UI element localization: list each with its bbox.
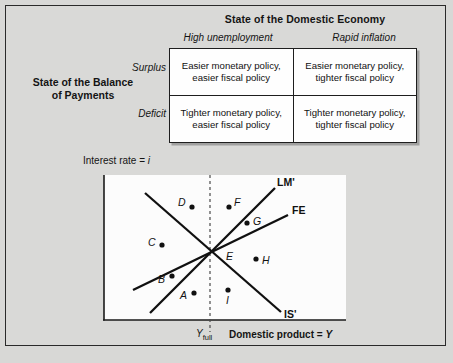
row-header-column: Surplus Deficit <box>60 48 166 140</box>
y-full-subscript: full <box>203 333 213 342</box>
y-full-axis-tick-label: Yfull <box>196 328 212 342</box>
data-point-label-F: F <box>234 196 241 208</box>
figure-root: State of the Domestic Economy High unemp… <box>0 0 453 363</box>
policy-matrix-block: State of the Domestic Economy High unemp… <box>0 0 453 152</box>
x-axis-symbol: Y <box>325 329 332 340</box>
x-axis-label: Domestic product = Y <box>229 329 332 340</box>
fe-curve-label: FE <box>292 204 305 216</box>
cell-surplus-high-unemployment: Easier monetary policy, easier fiscal po… <box>170 49 294 96</box>
row-header-surplus: Surplus <box>66 62 166 73</box>
column-header-high-unemployment: High unemployment <box>164 32 292 43</box>
table-row: Easier monetary policy, easier fiscal po… <box>170 49 417 96</box>
chart-canvas: IS' LM' FE A B C D E F G H I <box>0 152 453 352</box>
data-point-B <box>169 273 174 278</box>
cell-surplus-rapid-inflation: Easier monetary policy, tighter fiscal p… <box>293 49 417 96</box>
data-point-F <box>226 204 231 209</box>
data-point-label-I: I <box>226 294 229 306</box>
data-point-G <box>244 220 249 225</box>
data-point-label-E: E <box>226 250 234 262</box>
y-full-symbol: Y <box>196 328 203 339</box>
row-header-deficit: Deficit <box>66 108 166 119</box>
data-point-label-C: C <box>148 236 156 248</box>
column-header-rapid-inflation: Rapid inflation <box>300 32 428 43</box>
table-row: Tighter monetary policy, easier fiscal p… <box>170 96 417 143</box>
policy-matrix-table: Easier monetary policy, easier fiscal po… <box>169 48 417 143</box>
data-point-D <box>189 204 194 209</box>
lm-curve-label: LM' <box>277 176 295 188</box>
data-point-C <box>159 242 164 247</box>
x-axis-label-text: Domestic product = <box>229 329 325 340</box>
column-group-heading: State of the Domestic Economy <box>160 13 450 25</box>
data-point-label-D: D <box>178 196 186 208</box>
data-point-label-H: H <box>262 254 270 266</box>
data-point-label-G: G <box>253 215 261 227</box>
data-point-I <box>225 287 230 292</box>
plot-panel <box>104 175 346 320</box>
data-point-H <box>253 256 258 261</box>
data-point-A <box>191 290 196 295</box>
data-point-label-A: A <box>179 289 187 301</box>
cell-deficit-high-unemployment: Tighter monetary policy, easier fiscal p… <box>170 96 294 143</box>
is-curve-label: IS' <box>284 308 296 320</box>
cell-deficit-rapid-inflation: Tighter monetary policy, tighter fiscal … <box>293 96 417 143</box>
data-point-label-B: B <box>158 273 165 285</box>
islm-chart-block: Interest rate = i IS' LM' FE A B <box>0 152 453 352</box>
